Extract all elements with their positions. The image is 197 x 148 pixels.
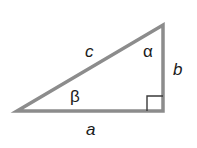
angle-beta-label: β	[70, 88, 80, 105]
side-c-label: c	[85, 43, 94, 60]
triangle-diagram	[0, 0, 197, 148]
angle-alpha-label: α	[143, 43, 153, 60]
right-triangle	[17, 25, 163, 111]
side-a-label: a	[86, 121, 95, 138]
right-angle-marker	[147, 96, 163, 111]
side-b-label: b	[173, 61, 182, 78]
